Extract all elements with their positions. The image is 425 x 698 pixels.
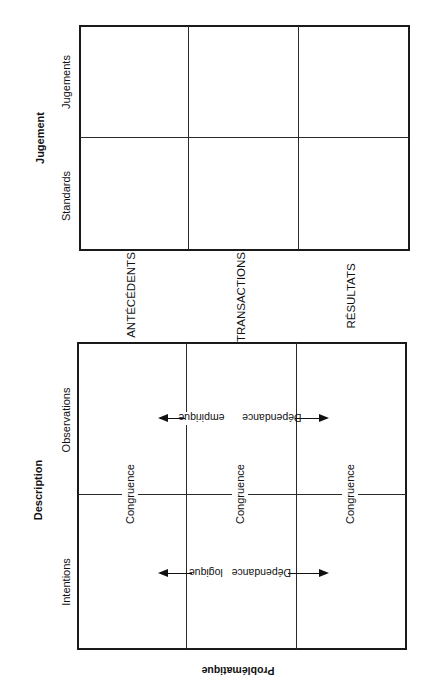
- congruence-label-transactions: Congruence: [234, 464, 246, 524]
- empirical-dependence-label: Dépendance empirique: [178, 412, 301, 424]
- judgement-matrix: [79, 25, 410, 251]
- judgement-column-divider-1: [188, 26, 189, 250]
- congruence-label-resultats: Congruence: [344, 464, 356, 524]
- description-row-label-intentions: Intentions: [60, 558, 72, 606]
- description-title: Description: [32, 460, 44, 521]
- column-label-transactions: TRANSACTIONS: [235, 252, 247, 342]
- judgement-row-divider: [80, 137, 409, 138]
- column-label-resultats: RÉSULTATS: [345, 263, 357, 328]
- arrowhead-left-icon: [158, 414, 168, 422]
- arrowhead-left-icon: [158, 569, 168, 577]
- footer-label-problematique: Problématique: [202, 665, 275, 677]
- judgement-column-divider-2: [298, 26, 299, 250]
- arrowhead-right-icon: [319, 414, 329, 422]
- description-column-divider-2: [296, 343, 297, 649]
- empirical-dependence-word2: empirique: [178, 412, 224, 424]
- logical-dependence-word2: logique: [189, 567, 223, 579]
- logical-dependence-label: Dépendance logique: [189, 567, 291, 579]
- description-column-divider-1: [186, 343, 187, 649]
- description-row-label-observations: Observations: [60, 388, 72, 453]
- congruence-label-antecedents: Congruence: [124, 464, 136, 524]
- column-label-antecedents: ANTÉCÉDENTS: [125, 252, 137, 338]
- arrowhead-right-icon: [319, 569, 329, 577]
- judgement-title: Jugement: [34, 112, 46, 164]
- judgement-row-label-standards: Standards: [60, 171, 72, 221]
- empirical-dependence-word1: Dépendance: [242, 412, 302, 424]
- judgement-row-label-jugements: Jugements: [60, 55, 72, 109]
- logical-dependence-word1: Dépendance: [232, 567, 292, 579]
